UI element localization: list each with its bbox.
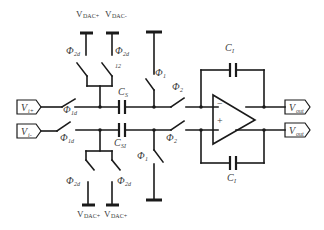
svg-text:DAC+: DAC+ — [84, 213, 101, 219]
svg-text:out: out — [296, 108, 304, 114]
svg-text:Φ: Φ — [63, 104, 71, 115]
dac-ref-top-labels: V DAC+ V DAC- — [76, 9, 127, 19]
svg-text:12: 12 — [115, 63, 121, 69]
svg-text:V: V — [104, 209, 111, 219]
svg-text:I: I — [231, 48, 235, 54]
svg-text:i-: i- — [28, 132, 32, 138]
svg-text:Φ: Φ — [155, 67, 163, 78]
opamp: − + — [213, 95, 255, 144]
svg-text:2d: 2d — [125, 181, 132, 187]
capacitor-ci-bottom: C I — [201, 130, 264, 184]
svg-text:1: 1 — [163, 73, 166, 79]
svg-text:Φ: Φ — [60, 132, 68, 143]
svg-text:Φ: Φ — [137, 150, 145, 161]
svg-text:2d: 2d — [123, 51, 130, 57]
svg-text:Φ: Φ — [66, 45, 74, 56]
svg-text:1d: 1d — [68, 138, 75, 144]
svg-text:C: C — [225, 42, 232, 53]
svg-text:DAC+: DAC+ — [111, 213, 128, 219]
capacitor-csi: C SI — [114, 123, 127, 149]
svg-text:2: 2 — [180, 87, 183, 93]
input-switch-bottom: Φ 1d — [41, 122, 118, 144]
input-port-vin-minus: V i- — [17, 124, 41, 138]
output-switch-top: Φ 2 — [171, 81, 218, 107]
output-port-vout-top: V out — [285, 100, 310, 114]
capacitor-ci-top: C I — [201, 42, 264, 107]
ground-switch-top: Φ 1 — [146, 32, 166, 107]
input-switch-top: Φ 1d — [41, 99, 118, 116]
svg-text:C: C — [114, 137, 121, 148]
svg-text:DAC-: DAC- — [112, 13, 127, 19]
svg-text:1d: 1d — [71, 110, 78, 116]
ground-switch-bottom: Φ 1 — [137, 130, 163, 200]
svg-text:1: 1 — [145, 156, 148, 162]
svg-text:DAC+: DAC+ — [83, 13, 100, 19]
svg-text:Φ: Φ — [172, 81, 180, 92]
svg-text:S: S — [125, 92, 128, 98]
svg-text:−: − — [217, 98, 223, 109]
svg-text:Φ: Φ — [115, 45, 123, 56]
svg-text:V: V — [105, 9, 112, 19]
svg-text:2d: 2d — [74, 51, 81, 57]
svg-text:Φ: Φ — [117, 175, 125, 186]
svg-text:C: C — [227, 172, 234, 183]
input-port-vin-plus: V i+ — [17, 100, 41, 114]
svg-text:out: out — [296, 131, 304, 137]
svg-text:C: C — [118, 86, 125, 97]
circuit-diagram: V i+ V i- Φ 1d C S Φ 2 — [0, 0, 324, 230]
svg-text:I: I — [233, 178, 237, 184]
svg-text:Φ: Φ — [166, 132, 174, 143]
svg-text:+: + — [217, 115, 223, 126]
dac-ref-bottom-labels: V DAC+ V DAC+ — [77, 209, 128, 219]
svg-text:SI: SI — [121, 143, 127, 149]
svg-text:V: V — [77, 209, 84, 219]
svg-text:2: 2 — [174, 138, 177, 144]
dac-branch-bottom: Φ 2d Φ 2d — [66, 130, 132, 205]
output-switch-bottom: Φ 2 — [166, 121, 218, 144]
output-port-vout-bottom: V out — [285, 123, 310, 137]
svg-text:i+: i+ — [28, 108, 34, 114]
capacitor-cs: C S — [118, 86, 128, 114]
svg-text:Φ: Φ — [66, 175, 74, 186]
svg-text:V: V — [76, 9, 83, 19]
svg-text:2d: 2d — [74, 181, 81, 187]
